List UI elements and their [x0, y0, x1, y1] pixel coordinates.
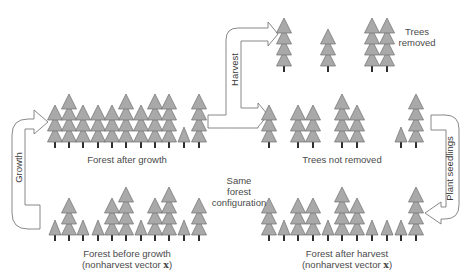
close-paren: ): [169, 259, 172, 270]
nonharvest-text: (nonharvest vector: [82, 259, 163, 270]
tree-icon: [49, 220, 61, 241]
tree-icon: [306, 105, 321, 148]
tree-icon: [48, 105, 63, 148]
trees-removed-label: Trees removed: [392, 26, 442, 48]
tree-icon: [92, 220, 104, 241]
tree-icon: [105, 105, 120, 148]
tree-icon: [77, 220, 89, 241]
tree-icon: [76, 105, 91, 148]
plant-seedlings-arrow-label: Plant seedlings: [444, 134, 455, 204]
tree-icon: [278, 220, 290, 241]
tree-icon: [62, 94, 77, 148]
tree-icon: [162, 187, 177, 241]
tree-icon: [105, 198, 120, 241]
tree-icon: [335, 187, 350, 241]
tree-icon: [291, 198, 306, 241]
forest-before-growth-sublabel: (nonharvest vector x): [62, 259, 192, 270]
trees-not-removed-label: Trees not removed: [282, 154, 402, 165]
trees-removed-line2: removed: [392, 37, 442, 48]
tree-icon: [395, 127, 407, 148]
tree-icon: [135, 220, 147, 241]
tree-icon: [350, 105, 365, 148]
tree-icon: [192, 198, 207, 241]
tree-icon: [306, 198, 321, 241]
forest-harvest-diagram: Forest after growth Forest before growth…: [0, 0, 466, 274]
forest-after-harvest: [262, 187, 424, 241]
tree-icon: [395, 220, 407, 241]
forest-before-growth: [49, 187, 207, 241]
tree-icon: [381, 220, 393, 241]
tree-icon: [335, 94, 350, 148]
tree-icon: [178, 127, 190, 148]
tree-icon: [322, 220, 334, 241]
same-line2: forest: [207, 186, 271, 197]
nonharvest-text: (nonharvest vector: [302, 259, 383, 270]
forest-after-growth-label: Forest after growth: [62, 154, 192, 165]
forest-after-growth: [48, 94, 207, 148]
tree-icon: [409, 187, 424, 241]
tree-icon: [119, 187, 134, 241]
forest-trees-not-removed: [262, 94, 424, 148]
tree-icon: [62, 198, 77, 241]
forest-trees-removed: [277, 18, 395, 72]
forest-after-harvest-sublabel: (nonharvest vector x): [282, 259, 412, 270]
same-forest-configuration-label: Same forest configuration: [207, 175, 271, 208]
close-paren: ): [389, 259, 392, 270]
tree-icon: [134, 105, 149, 148]
tree-icon: [409, 94, 424, 148]
tree-icon: [350, 198, 365, 241]
same-line3: configuration: [207, 197, 271, 208]
growth-arrow-label: Growth: [13, 148, 24, 188]
tree-icon: [178, 220, 190, 241]
tree-icon: [291, 105, 306, 148]
tree-icon: [148, 198, 163, 241]
tree-icon: [91, 105, 106, 148]
tree-icon: [192, 94, 207, 148]
tree-icon: [119, 94, 134, 148]
tree-icon: [162, 94, 177, 148]
forest-after-harvest-label: Forest after harvest: [282, 248, 412, 259]
harvest-arrow-label: Harvest: [229, 50, 240, 90]
tree-icon: [365, 18, 380, 72]
forest-before-growth-label: Forest before growth: [62, 248, 192, 259]
tree-icon: [321, 29, 336, 72]
tree-icon: [366, 220, 378, 241]
tree-icon: [277, 18, 292, 72]
trees-removed-line1: Trees: [392, 26, 442, 37]
same-line1: Same: [207, 175, 271, 186]
tree-icon: [148, 94, 163, 148]
